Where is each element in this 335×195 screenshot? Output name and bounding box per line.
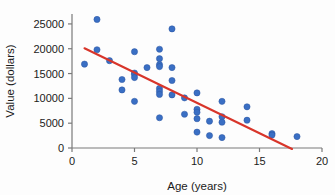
data-point — [194, 116, 200, 122]
data-point — [169, 26, 175, 32]
data-point — [206, 118, 212, 124]
data-point — [219, 98, 225, 104]
data-point — [131, 98, 137, 104]
data-point — [219, 134, 225, 140]
data-point — [94, 16, 100, 22]
data-point — [206, 132, 212, 138]
x-axis-title: Age (years) — [167, 180, 227, 192]
scatter-chart: 0500010000150002000025000 05101520 Age (… — [0, 0, 335, 195]
x-axis-ticks — [72, 148, 322, 152]
data-point — [219, 119, 225, 125]
data-point — [81, 61, 87, 67]
data-point — [156, 46, 162, 52]
data-point — [169, 77, 175, 83]
data-point — [244, 104, 250, 110]
y-axis-tick-label: 5000 — [40, 117, 64, 129]
x-axis-tick-label: 15 — [253, 155, 265, 167]
data-point — [94, 47, 100, 53]
data-point — [181, 111, 187, 117]
y-axis-tick-label: 20000 — [33, 43, 64, 55]
data-point — [194, 129, 200, 135]
x-axis: 05101520 — [69, 148, 328, 167]
data-point — [119, 87, 125, 93]
data-point — [194, 109, 200, 115]
data-point — [156, 64, 162, 70]
x-axis-tick-label: 20 — [316, 155, 328, 167]
data-point — [156, 91, 162, 97]
y-axis-tick-label: 0 — [58, 142, 64, 154]
data-point — [169, 65, 175, 71]
chart-canvas: 0500010000150002000025000 05101520 Age (… — [0, 0, 335, 195]
trend-line — [85, 48, 293, 149]
x-axis-tick-label: 10 — [191, 155, 203, 167]
x-axis-tick-label: 5 — [131, 155, 137, 167]
y-axis-tick-label: 10000 — [33, 92, 64, 104]
data-point — [194, 90, 200, 96]
data-point — [131, 74, 137, 80]
y-axis-tick-labels: 0500010000150002000025000 — [33, 18, 64, 154]
y-axis-title: Value (dollars) — [4, 44, 16, 117]
data-point — [131, 49, 137, 55]
x-axis-tick-label: 0 — [69, 155, 75, 167]
data-point — [119, 76, 125, 82]
data-point — [156, 115, 162, 121]
data-point — [244, 117, 250, 123]
y-axis: 0500010000150002000025000 — [33, 14, 72, 154]
data-point — [294, 133, 300, 139]
y-axis-tick-label: 15000 — [33, 68, 64, 80]
x-axis-tick-labels: 05101520 — [69, 155, 328, 167]
scatter-points — [81, 16, 300, 140]
data-point — [156, 56, 162, 62]
y-axis-tick-label: 25000 — [33, 18, 64, 30]
data-point — [144, 65, 150, 71]
